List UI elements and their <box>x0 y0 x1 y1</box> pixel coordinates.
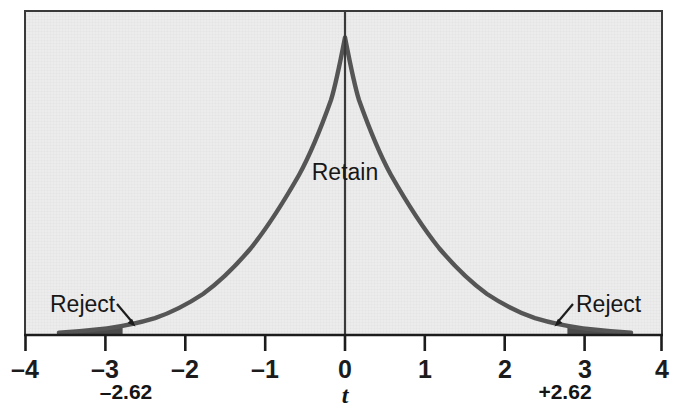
x-tick-label-0: 0 <box>338 357 352 382</box>
critical-value-label-upper: +2.62 <box>538 381 591 402</box>
x-tick-label--2: –2 <box>171 357 199 382</box>
x-axis-ticks <box>26 335 662 351</box>
x-tick-label-3: 3 <box>578 357 592 382</box>
x-tick-label-1: 1 <box>418 357 432 382</box>
x-tick-label--1: –1 <box>251 357 279 382</box>
x-axis-title: t <box>342 383 349 407</box>
x-tick-label--4: –4 <box>11 357 39 382</box>
reject-region-label-left: Reject <box>50 293 115 316</box>
retain-region-label: Retain <box>312 161 378 184</box>
x-tick-label--3: –3 <box>91 357 119 382</box>
x-tick-label-2: 2 <box>498 357 512 382</box>
reject-region-label-right: Reject <box>576 293 641 316</box>
x-tick-label-4: 4 <box>655 357 669 382</box>
critical-value-label-lower: –2.62 <box>100 381 153 402</box>
t-distribution-figure: –4 –3 –2 –1 0 1 2 3 4 –2.62 +2.62 t Reta… <box>0 0 680 419</box>
